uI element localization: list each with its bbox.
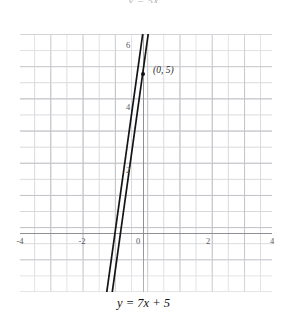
figure-top-title: y = 5x — [0, 0, 287, 3]
x-tick-label-2: 2 — [206, 236, 210, 246]
point-label-0-5: (0, 5) — [153, 65, 174, 75]
point-marker-0-5 — [141, 72, 145, 76]
line-stroke-left — [107, 34, 144, 292]
figure-caption: y = 7x + 5 — [0, 296, 287, 311]
figure-caption-text: y = 7x + 5 — [117, 296, 170, 310]
y-tick-label-6: 6 — [126, 40, 130, 50]
graph-plot-area: -4 -2 0 2 4 6 4 2 (0, 5) — [20, 34, 272, 292]
x-tick-label--2: -2 — [78, 236, 85, 246]
y-tick-label-4: 4 — [126, 102, 130, 112]
line-layer — [20, 34, 272, 292]
line-svg — [20, 34, 272, 292]
x-tick-label--4: -4 — [16, 236, 23, 246]
x-tick-label-0: 0 — [136, 236, 140, 246]
x-tick-label-4: 4 — [270, 236, 274, 246]
y-tick-label-2: 2 — [126, 165, 130, 175]
